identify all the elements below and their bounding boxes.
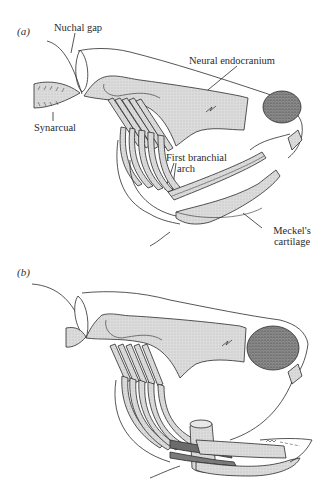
nuchal-flap <box>76 50 88 92</box>
label-first-branchial-arch: First branchial arch <box>166 152 227 174</box>
label-first-branchial-line2: arch <box>166 163 195 174</box>
label-synarcual: Synarcual <box>34 122 76 133</box>
labial-cartilage-b <box>288 364 302 384</box>
jaw-line <box>250 134 290 150</box>
cheek-line-b <box>230 382 292 440</box>
panel-b-drawing <box>32 284 312 478</box>
panel-label-b: (b) <box>17 266 30 278</box>
synarcual <box>34 82 80 108</box>
label-neural-endocranium: Neural endocranium <box>189 55 275 66</box>
neural-endocranium <box>84 76 248 146</box>
leader-nuchal-gap <box>71 33 75 53</box>
orbit-b <box>247 326 299 370</box>
anatomical-figure: (a) Nuchal gap Neural endocranium Synarc… <box>0 0 328 500</box>
labial-cartilage <box>288 130 302 150</box>
ceratobranchials-b <box>122 376 200 450</box>
label-nuchal-gap: Nuchal gap <box>54 22 102 33</box>
orbit <box>263 91 301 123</box>
label-first-branchial-line1: First branchial <box>166 152 227 163</box>
panel-label-a: (a) <box>17 25 30 37</box>
epibranchials-b <box>110 344 163 386</box>
label-meckels-line2: cartilage <box>274 236 310 247</box>
label-meckels-line1: Meckel's <box>273 225 310 236</box>
label-meckels-cartilage: Meckel's cartilage <box>262 225 322 247</box>
teeth <box>266 440 276 442</box>
ventral-line <box>150 232 170 246</box>
diagram-svg <box>0 0 328 500</box>
leader-meckels <box>243 213 262 228</box>
ventral-line-b <box>150 466 180 478</box>
